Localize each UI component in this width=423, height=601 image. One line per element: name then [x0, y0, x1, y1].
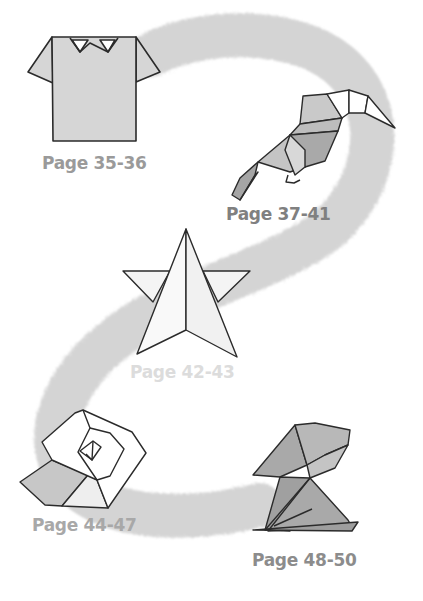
toucan-page-label[interactable]: Page 37-41: [226, 204, 330, 224]
shirt-page-label[interactable]: Page 35-36: [42, 153, 146, 173]
illustration-canvas: [0, 0, 423, 601]
rabbit-icon[interactable]: [253, 423, 358, 531]
shirt-icon[interactable]: [28, 37, 160, 141]
rose-page-label[interactable]: Page 44-47: [32, 515, 136, 535]
rabbit-page-label[interactable]: Page 48-50: [252, 550, 356, 570]
star-page-label[interactable]: Page 42-43: [130, 362, 234, 382]
origami-index-page: Page 35-36 Page 37-41 Page 42-43 Page 44…: [0, 0, 423, 601]
